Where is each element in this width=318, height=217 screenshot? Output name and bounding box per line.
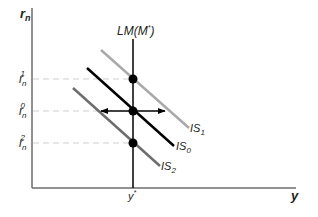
r1-label: rn1 xyxy=(19,69,27,88)
r0-label: rn0 xyxy=(19,101,27,120)
lm-label: LM(M*) xyxy=(117,24,154,38)
is0-label: IS0 xyxy=(176,140,191,155)
y-star-label: y* xyxy=(127,189,137,202)
is1-curve xyxy=(101,50,189,128)
equilibrium-point-r2 xyxy=(129,139,138,148)
r2-label: rn2 xyxy=(19,133,27,152)
islm-diagram: rn y LM(M*) y* rn1 rn0 rn2 IS1 IS0 IS2 xyxy=(0,0,318,217)
y-axis-label: rn xyxy=(20,6,31,23)
equilibrium-point-r1 xyxy=(129,75,138,84)
x-axis-label: y xyxy=(290,188,299,203)
is1-label: IS1 xyxy=(190,122,205,137)
equilibrium-point-r0 xyxy=(129,107,138,116)
is2-label: IS2 xyxy=(161,160,176,175)
is2-curve xyxy=(73,88,160,166)
